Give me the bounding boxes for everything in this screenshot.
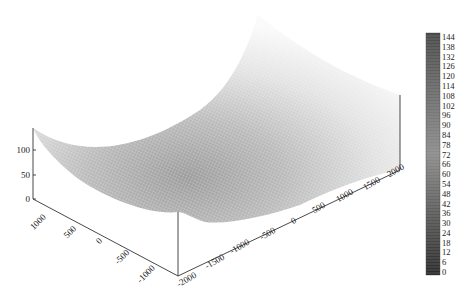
z-axis-ticks: 100 50 0 [17, 145, 31, 204]
colorbar-tick-label: 138 [442, 42, 455, 52]
colorbar-tick-label: 24 [442, 228, 451, 238]
colorbar-tick-label: 48 [442, 189, 451, 199]
colorbar-tick-label: 0 [442, 267, 446, 277]
svg-text:-500: -500 [258, 225, 278, 242]
svg-text:1000: 1000 [334, 186, 355, 204]
svg-text:-1000: -1000 [228, 237, 252, 256]
colorbar-tick-label: 84 [442, 130, 451, 140]
colorbar-tick-label: 78 [442, 140, 451, 150]
colorbar-tick-label: 18 [442, 238, 451, 248]
colorbar-gradient [426, 33, 440, 275]
colorbar-tick-label: 108 [442, 91, 455, 101]
colorbar-tick-label: 42 [442, 199, 451, 209]
colorbar-tick-label: 30 [442, 218, 451, 228]
colorbar-tick-label: 120 [442, 71, 455, 81]
colorbar-tick-label: 144 [442, 32, 456, 42]
colorbar-tick-label: 102 [442, 101, 455, 111]
colorbar-tick-label: 132 [442, 52, 455, 62]
svg-text:100: 100 [17, 145, 31, 155]
colorbar-tick-label: 36 [442, 208, 451, 218]
colorbar-tick-label: 12 [442, 247, 451, 257]
svg-text:0: 0 [289, 215, 298, 226]
colorbar-tick-label: 6 [442, 257, 446, 267]
svg-text:0: 0 [26, 194, 31, 204]
svg-text:1000: 1000 [28, 212, 48, 232]
svg-text:500: 500 [310, 199, 327, 215]
y-axis-ticks: 1000 500 0 -500 -1000 [28, 212, 157, 285]
colorbar-tick-label: 114 [442, 81, 455, 91]
colorbar-tick-label: 60 [442, 169, 451, 179]
svg-text:0: 0 [94, 235, 105, 246]
svg-text:500: 500 [62, 223, 79, 240]
colorbar-tick-label: 66 [442, 159, 451, 169]
colorbar: 0612182430364248546066727884909610210811… [426, 32, 456, 277]
svg-text:50: 50 [21, 170, 31, 180]
colorbar-tick-label: 72 [442, 150, 451, 160]
colorbar-tick-label: 96 [442, 110, 451, 120]
colorbar-tick-label: 90 [442, 120, 451, 130]
colorbar-tick-label: 54 [442, 179, 451, 189]
colorbar-tick-label: 126 [442, 61, 455, 71]
surface-chart: 100 50 0 1000 500 0 -500 -1000 -2000 -15… [0, 0, 465, 298]
svg-text:-1000: -1000 [135, 263, 157, 285]
